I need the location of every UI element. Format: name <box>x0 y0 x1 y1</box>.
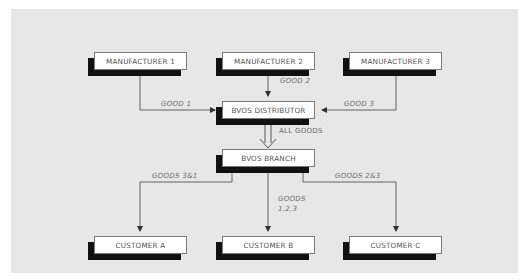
edge-distributor-branch <box>260 124 276 148</box>
node-label: BVOS BRANCH <box>222 149 315 167</box>
node-bvos-distributor: BVOS DISTRIBUTOR <box>222 101 315 119</box>
node-label: MANUFACTURER 2 <box>222 52 315 70</box>
node-label: CUSTOMER C <box>349 236 442 254</box>
edge-label-goods-1-2-3-line2: 1,2,3 <box>278 205 297 214</box>
edge-label-good-2: GOOD 2 <box>280 77 310 86</box>
edge-label-good-3: GOOD 3 <box>344 100 374 109</box>
node-bvos-branch: BVOS BRANCH <box>222 149 315 167</box>
node-label: BVOS DISTRIBUTOR <box>222 101 315 119</box>
node-manufacturer-1: MANUFACTURER 1 <box>94 52 187 70</box>
node-manufacturer-2: MANUFACTURER 2 <box>222 52 315 70</box>
node-customer-b: CUSTOMER B <box>222 236 315 254</box>
node-label: CUSTOMER A <box>94 236 187 254</box>
edge-label-goods-3-1: GOODS 3&1 <box>152 172 198 181</box>
node-label: CUSTOMER B <box>222 236 315 254</box>
edge-label-all-goods: ALL GOODS <box>279 127 323 136</box>
edge-label-goods-2-3: GOODS 2&3 <box>335 172 381 181</box>
edge-label-good-1: GOOD 1 <box>161 100 191 109</box>
node-manufacturer-3: MANUFACTURER 3 <box>349 52 442 70</box>
node-label: MANUFACTURER 1 <box>94 52 187 70</box>
node-label: MANUFACTURER 3 <box>349 52 442 70</box>
node-customer-a: CUSTOMER A <box>94 236 187 254</box>
edge-label-goods-1-2-3-line1: GOODS <box>278 195 306 204</box>
node-customer-c: CUSTOMER C <box>349 236 442 254</box>
